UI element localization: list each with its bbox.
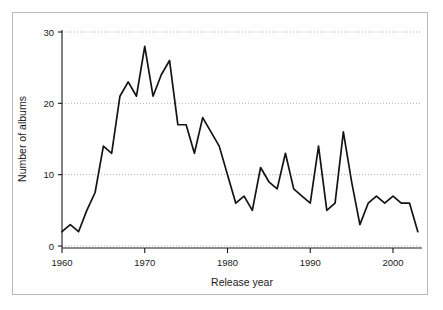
- line-chart: 0102030 19601970198019902000 Release yea…: [0, 0, 443, 310]
- x-tick-label-1960: 1960: [51, 257, 72, 268]
- y-tick-label-30: 30: [43, 27, 54, 38]
- y-axis: 0102030: [43, 27, 62, 252]
- x-tick-label-1990: 1990: [300, 257, 321, 268]
- x-tick-label-1970: 1970: [134, 257, 155, 268]
- x-tick-group: 19601970198019902000: [51, 248, 403, 268]
- y-axis-title: Number of albums: [16, 96, 28, 182]
- x-axis: 19601970198019902000: [51, 248, 422, 268]
- y-tick-label-0: 0: [49, 241, 54, 252]
- y-tick-group: 0102030: [43, 27, 62, 252]
- x-tick-label-1980: 1980: [217, 257, 238, 268]
- x-axis-title: Release year: [211, 276, 273, 288]
- x-tick-label-2000: 2000: [382, 257, 403, 268]
- data-series-line: [62, 46, 418, 231]
- y-tick-label-20: 20: [43, 98, 54, 109]
- figure-root: 0102030 19601970198019902000 Release yea…: [0, 0, 443, 310]
- gridlines-group: [62, 32, 422, 246]
- y-tick-label-10: 10: [43, 169, 54, 180]
